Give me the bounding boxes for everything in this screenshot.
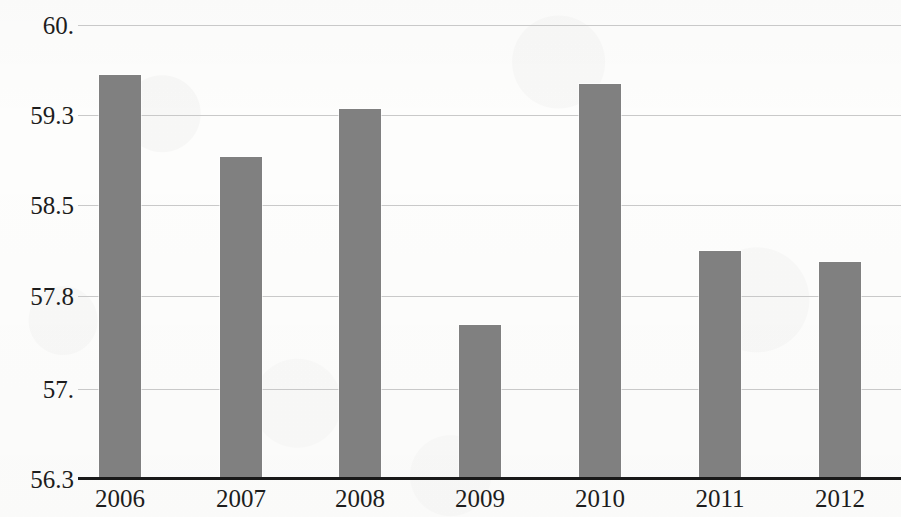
y-axis-tick-label-57: 57. [43, 377, 74, 402]
y-axis-tick-label-60: 60. [43, 13, 74, 38]
bar-2011 [699, 251, 741, 479]
plot-area: 2006 2007 2008 2009 2010 2011 2012 [78, 0, 901, 517]
x-axis-tick-label-2009: 2009 [438, 486, 522, 511]
x-axis-tick-label-2006: 2006 [78, 486, 162, 511]
bar-2010 [579, 84, 621, 479]
bar-2006 [99, 75, 141, 479]
bar-2012 [819, 262, 861, 479]
y-axis-tick-label-59-3: 59.3 [30, 103, 74, 128]
x-axis-tick-label-2011: 2011 [678, 486, 762, 511]
y-axis-tick-label-58-5: 58.5 [30, 193, 74, 218]
y-axis-tick-label-56-3: 56.3 [30, 467, 74, 492]
x-axis-tick-label-2007: 2007 [199, 486, 283, 511]
bar-2007 [220, 157, 262, 479]
bar-2009 [459, 325, 501, 479]
gridline-60 [78, 25, 901, 26]
gridline-59-3 [78, 115, 901, 116]
x-axis-tick-label-2008: 2008 [318, 486, 402, 511]
y-axis-tick-label-57-8: 57.8 [30, 284, 74, 309]
gridline-58-5 [78, 205, 901, 206]
bar-chart: 60. 59.3 58.5 57.8 57. 56.3 2006 2007 20… [0, 0, 901, 517]
bar-2008 [339, 109, 381, 479]
x-axis-tick-label-2010: 2010 [558, 486, 642, 511]
x-axis-baseline [78, 477, 901, 480]
x-axis-tick-label-2012: 2012 [798, 486, 882, 511]
gridline-57-8 [78, 296, 901, 297]
y-axis: 60. 59.3 58.5 57.8 57. 56.3 [0, 0, 74, 517]
